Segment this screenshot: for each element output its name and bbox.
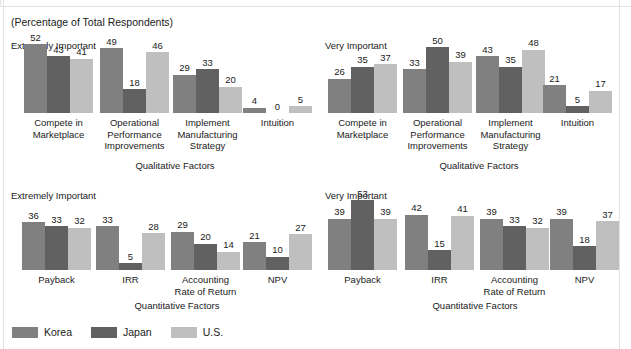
bar-value-label: 41 [70, 47, 93, 57]
bar-value-label: 14 [217, 240, 240, 250]
bar-japan[interactable] [426, 47, 449, 113]
bar-slot: 33 [96, 190, 119, 270]
bar-slot: 36 [22, 190, 45, 270]
bar-japan[interactable] [351, 200, 374, 270]
legend-item-japan[interactable]: Japan [91, 326, 152, 338]
bar-us[interactable] [374, 219, 397, 270]
bar-us[interactable] [589, 91, 612, 113]
bar-us[interactable] [70, 59, 93, 113]
bar-korea[interactable] [480, 219, 503, 270]
bar-slot: 41 [70, 40, 93, 113]
bar-japan[interactable] [266, 257, 289, 270]
bar-korea[interactable] [243, 242, 266, 270]
legend-swatch-us [171, 327, 197, 338]
bar-value-label: 33 [45, 215, 68, 225]
legend-label-japan: Japan [123, 326, 152, 338]
bar-japan[interactable] [47, 56, 70, 113]
bar-group: 393332 [480, 190, 549, 270]
bar-value-label: 33 [196, 58, 219, 68]
bar-korea[interactable] [22, 222, 45, 270]
bar-korea[interactable] [476, 56, 499, 113]
bar-slot: 39 [449, 40, 472, 113]
bar-value-label: 32 [68, 216, 91, 226]
bar-value-label: 43 [476, 45, 499, 55]
bar-group-bars: 405 [243, 40, 312, 113]
bar-us[interactable] [217, 252, 240, 270]
bar-group-bars: 293320 [173, 40, 242, 113]
bar-japan[interactable] [196, 69, 219, 113]
plot-area-quantitative-very-important: 395339421541393332391837 [325, 190, 623, 270]
bar-value-label: 39 [480, 207, 503, 217]
bar-value-label: 43 [47, 45, 70, 55]
category-label: Implement Manufacturing Strategy [177, 117, 237, 152]
bar-value-label: 20 [219, 75, 242, 85]
bar-value-label: 29 [171, 220, 194, 230]
bar-us[interactable] [522, 50, 545, 113]
legend-item-us[interactable]: U.S. [171, 326, 223, 338]
bar-korea[interactable] [100, 48, 123, 113]
category-label: Payback [38, 274, 74, 286]
bar-korea[interactable] [171, 232, 194, 270]
bar-group-bars: 421541 [405, 190, 474, 270]
bar-us[interactable] [68, 228, 91, 270]
bar-group-bars: 395339 [328, 190, 397, 270]
bar-value-label: 20 [194, 232, 217, 242]
bar-value-label: 18 [123, 78, 146, 88]
bar-us[interactable] [526, 228, 549, 270]
bar-japan[interactable] [45, 226, 68, 270]
bar-slot: 46 [146, 40, 169, 113]
bar-korea[interactable] [96, 226, 119, 270]
bar-value-label: 48 [522, 38, 545, 48]
bar-value-label: 50 [426, 36, 449, 46]
bar-slot: 49 [100, 40, 123, 113]
bar-japan[interactable] [428, 250, 451, 270]
bar-us[interactable] [596, 221, 619, 270]
bar-korea[interactable] [403, 69, 426, 113]
bar-value-label: 26 [328, 67, 351, 77]
category-label: Compete in Marketplace [337, 117, 389, 140]
bar-us[interactable] [289, 234, 312, 270]
bar-slot: 41 [451, 190, 474, 270]
bar-japan[interactable] [573, 246, 596, 270]
figure-caption: (Percentage of Total Respondents) [11, 16, 173, 28]
bar-korea[interactable] [543, 85, 566, 113]
category-label: Intuition [261, 117, 294, 129]
bar-korea[interactable] [243, 108, 266, 113]
bar-japan[interactable] [194, 244, 217, 270]
bar-value-label: 36 [22, 211, 45, 221]
frame-border-top [0, 6, 631, 7]
bar-japan[interactable] [119, 263, 142, 270]
bar-japan[interactable] [123, 89, 146, 113]
bar-us[interactable] [146, 52, 169, 113]
bar-japan[interactable] [566, 106, 589, 113]
bar-korea[interactable] [24, 44, 47, 113]
bar-japan[interactable] [351, 67, 374, 113]
bar-korea[interactable] [550, 219, 573, 270]
bar-group-bars: 524341 [24, 40, 93, 113]
bar-japan[interactable] [503, 226, 526, 270]
bar-japan[interactable] [499, 67, 522, 113]
bar-us[interactable] [374, 64, 397, 113]
bar-slot: 39 [374, 190, 397, 270]
legend-item-korea[interactable]: Korea [12, 326, 72, 338]
bar-korea[interactable] [328, 79, 351, 113]
bar-value-label: 4 [243, 96, 266, 106]
bar-us[interactable] [142, 233, 165, 270]
bar-us[interactable] [451, 216, 474, 270]
bar-us[interactable] [289, 106, 312, 113]
bar-us[interactable] [449, 62, 472, 113]
bar-value-label: 29 [173, 63, 196, 73]
bar-group: 395339 [328, 190, 397, 270]
legend-swatch-japan [91, 327, 117, 338]
bar-value-label: 39 [550, 207, 573, 217]
bar-korea[interactable] [173, 75, 196, 113]
x-axis-label: Quantitative Factors [115, 300, 239, 311]
bar-slot: 29 [173, 40, 196, 113]
bar-group: 211027 [243, 190, 312, 270]
category-label: Operational Performance Improvements [104, 117, 164, 152]
bar-korea[interactable] [328, 219, 351, 270]
bar-us[interactable] [219, 87, 242, 113]
bar-value-label: 35 [499, 55, 522, 65]
bar-korea[interactable] [405, 215, 428, 270]
category-label: Implement Manufacturing Strategy [480, 117, 540, 152]
